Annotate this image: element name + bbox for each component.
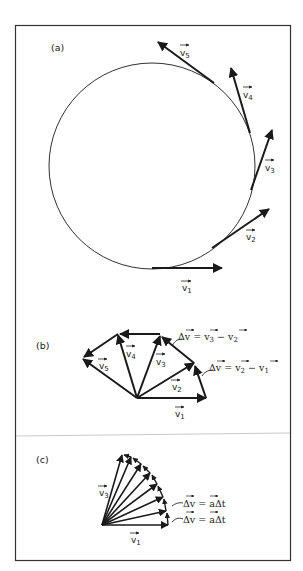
figure-canvas: (a) v1 v2 v3 v4 v5 [0, 0, 303, 571]
panel-c: (c) v1 v3 [36, 454, 226, 547]
vector-label-v5: v5 [98, 359, 109, 373]
svg-text:Δv = aΔt: Δv = aΔt [183, 514, 226, 525]
svg-text:v1: v1 [131, 535, 141, 547]
equation-delta-v-2-1: Δv = v2 − v1 [202, 361, 278, 376]
vector-label-v1: v1 [130, 533, 141, 547]
svg-text:v4: v4 [126, 349, 136, 361]
vector-label-v1: v1 [175, 407, 185, 421]
vector-label-v3: v3 [98, 486, 109, 500]
vector-label-v4: v4 [243, 87, 253, 102]
vector-label-v2: v2 [171, 380, 182, 394]
svg-text:v1: v1 [175, 409, 185, 421]
equation-delta-v-a-dt-upper: Δv = aΔt [172, 496, 226, 509]
panel-b-label: (b) [36, 340, 49, 351]
panel-b: (b) v1 v2 v3 v4 v5 [36, 330, 278, 421]
svg-text:v4: v4 [243, 90, 253, 102]
equation-delta-v-a-dt-lower: Δv = aΔt [172, 512, 226, 525]
panel-a: (a) v1 v2 v3 v4 v5 [49, 42, 275, 295]
vector-label-v3: v3 [265, 160, 275, 175]
figure-frame [16, 26, 291, 561]
panel-divider [16, 433, 290, 436]
svg-text:Δv = aΔt: Δv = aΔt [183, 498, 226, 509]
svg-text:v2: v2 [172, 382, 182, 394]
equation-delta-v-3-2: Δv = v3 − v2 [172, 330, 247, 346]
vector-v5-arrow [83, 359, 137, 398]
svg-text:v3: v3 [99, 488, 109, 500]
panel-c-label: (c) [36, 454, 49, 465]
vector-label-v1: v1 [181, 281, 192, 295]
svg-text:v3: v3 [156, 357, 166, 369]
delta-v-2-1-arrow [195, 366, 206, 398]
vector-v2-arrow [212, 209, 269, 248]
vector-label-v5: v5 [180, 45, 190, 60]
vector-v4-arrow [118, 335, 137, 398]
vector-v3-arrow [137, 336, 160, 398]
vector-label-v4: v4 [126, 346, 136, 361]
vector-label-v2: v2 [246, 230, 256, 244]
delta-v-5-4-arrow [84, 334, 118, 357]
circular-path [49, 63, 255, 269]
panel-a-label: (a) [51, 42, 64, 53]
vector-v4-arrow [231, 68, 250, 133]
svg-text:v1: v1 [182, 283, 192, 295]
svg-text:Δv = v2 − v1: Δv = v2 − v1 [209, 362, 269, 375]
vector-v5-arrow [158, 42, 214, 83]
svg-text:v2: v2 [246, 232, 256, 244]
vector-label-v3: v3 [156, 354, 166, 369]
svg-text:Δv = v3 − v2: Δv = v3 − v2 [178, 331, 238, 344]
svg-text:v3: v3 [265, 163, 275, 175]
